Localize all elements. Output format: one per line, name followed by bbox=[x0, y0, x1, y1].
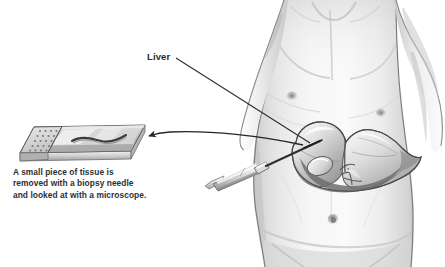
liver-biopsy-figure: Liver A small piece of tissue is removed… bbox=[0, 0, 445, 267]
illustration-canvas bbox=[0, 0, 445, 267]
caption-line-3: and looked at with a microscope. bbox=[13, 190, 193, 201]
slide-left-edge-face bbox=[20, 153, 48, 162]
caption-line-1: A small piece of tissue is bbox=[13, 167, 193, 178]
nipple-right-core bbox=[379, 111, 383, 114]
microscope-slide bbox=[20, 125, 145, 161]
figure-caption: A small piece of tissue is removed with … bbox=[13, 167, 193, 201]
liver-label: Liver bbox=[147, 52, 170, 62]
nipple-left-core bbox=[290, 94, 294, 98]
caption-line-2: removed with a biopsy needle bbox=[13, 178, 193, 189]
